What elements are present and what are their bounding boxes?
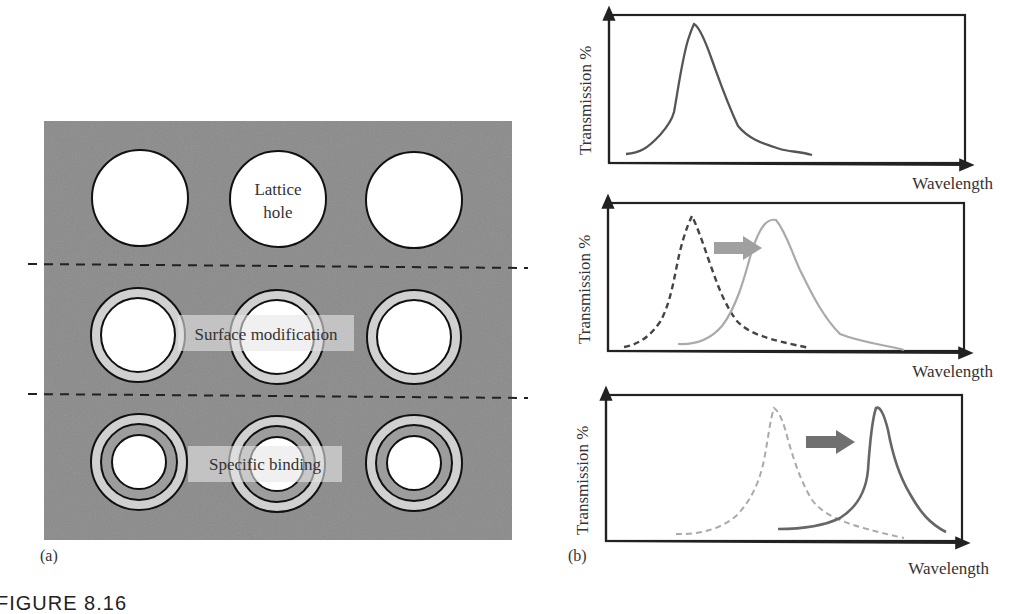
x-axis-label: Wavelength [912,174,993,193]
spectrum-after [678,220,904,350]
spectrum-before [676,408,904,538]
panel-b-spectra: Transmission % Wavelength Transmission %… [568,12,993,578]
panel-b-label: (b) [568,547,587,565]
shift-arrow-icon [714,236,762,260]
modified-hole [367,290,461,384]
spectrum-chart-surface-modification: Transmission % Wavelength [575,200,993,381]
y-axis-label: Transmission % [573,426,592,535]
lattice-hole [92,150,188,246]
x-axis-label: Wavelength [912,362,993,381]
chart-frame [608,203,964,351]
row-specific-binding: Specific binding [91,414,462,512]
lattice-hole-label-line2: hole [263,203,292,222]
row-surface-modification: Surface modification [91,288,461,384]
shift-arrow-icon [806,430,855,454]
surface-modification-label: Surface modification [194,325,338,344]
figure-caption: FIGURE 8.16 [0,592,127,614]
panel-a-lattice-diagram: Lattice hole Surface modification [28,121,528,565]
spectrum-after [778,408,946,532]
spectrum-initial [626,24,812,155]
specific-binding-label: Specific binding [209,455,321,474]
y-axis-label: Transmission % [576,46,595,155]
bound-hole [91,414,187,510]
panel-a-label: (a) [40,547,58,565]
chart-frame [606,395,962,541]
x-axis-label: Wavelength [908,559,989,578]
lattice-hole [230,151,326,247]
y-axis-label: Transmission % [575,235,594,344]
lattice-hole-label-line1: Lattice [254,180,301,199]
chart-frame [609,15,965,163]
modified-hole [91,288,185,382]
lattice-hole [366,152,462,248]
spectrum-chart-bare: Transmission % Wavelength [576,12,993,193]
spectrum-chart-specific-binding: Transmission % Wavelength [573,392,989,578]
spectrum-before [624,216,810,348]
row-bare-lattice: Lattice hole [92,150,462,248]
bound-hole [366,415,462,511]
